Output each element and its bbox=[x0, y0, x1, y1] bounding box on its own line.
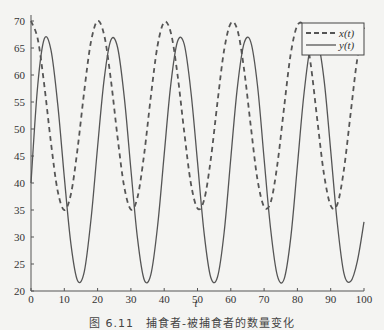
figure-caption: 图 6.11 捕食者-被捕食者的数量变化 bbox=[0, 314, 384, 330]
axes: 0102030405060708090100202530354045505560… bbox=[14, 15, 373, 305]
y-tick-label: 30 bbox=[14, 231, 26, 243]
x-tick-label: 0 bbox=[28, 293, 34, 305]
series-y-line bbox=[31, 37, 364, 283]
x-tick-label: 40 bbox=[159, 293, 171, 305]
y-tick-label: 60 bbox=[14, 69, 26, 81]
legend: x(t)y(t) bbox=[302, 23, 364, 55]
legend-box bbox=[302, 23, 364, 55]
x-tick-label: 90 bbox=[325, 293, 337, 305]
legend-label: y(t) bbox=[338, 39, 355, 52]
x-tick-label: 70 bbox=[259, 293, 271, 305]
x-tick-label: 60 bbox=[225, 293, 237, 305]
x-tick-label: 100 bbox=[356, 293, 373, 305]
x-tick-label: 80 bbox=[292, 293, 304, 305]
x-tick-label: 30 bbox=[125, 293, 137, 305]
y-tick-label: 55 bbox=[14, 96, 26, 108]
x-tick-label: 10 bbox=[59, 293, 71, 305]
y-tick-label: 40 bbox=[14, 177, 26, 189]
y-tick-label: 70 bbox=[14, 15, 26, 27]
series-layer bbox=[31, 21, 364, 283]
y-tick-label: 25 bbox=[14, 258, 26, 270]
y-tick-label: 50 bbox=[14, 123, 26, 135]
x-tick-label: 20 bbox=[92, 293, 104, 305]
y-tick-label: 65 bbox=[14, 42, 26, 54]
y-tick-label: 20 bbox=[14, 285, 26, 297]
y-tick-label: 45 bbox=[14, 150, 26, 162]
y-tick-label: 35 bbox=[14, 204, 26, 216]
